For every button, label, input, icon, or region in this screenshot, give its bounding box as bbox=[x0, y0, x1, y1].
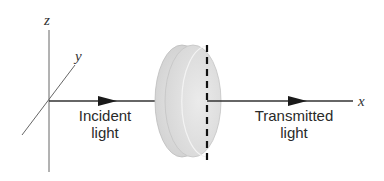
incident-label-line2: light bbox=[91, 124, 119, 141]
y-axis-label: y bbox=[73, 48, 82, 64]
transmitted-label-line1: Transmitted bbox=[255, 107, 334, 124]
incident-arrow-icon bbox=[98, 96, 117, 106]
transmitted-arrow-icon bbox=[288, 96, 307, 106]
polarizer-diagram: z y x Incident light Transmitted light bbox=[0, 0, 384, 181]
transmitted-label-line2: light bbox=[280, 124, 308, 141]
z-axis-label: z bbox=[43, 12, 50, 28]
incident-label-line1: Incident bbox=[79, 107, 132, 124]
x-axis-label: x bbox=[357, 93, 365, 109]
